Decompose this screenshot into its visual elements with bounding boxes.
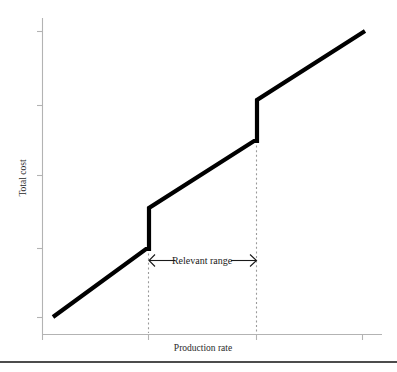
- reference-lines-group: [149, 141, 257, 333]
- total-cost-curve: [53, 31, 365, 317]
- x-axis-ticks: [43, 335, 363, 341]
- y-axis-ticks: [37, 32, 43, 318]
- relevant-range-annotation: Relevant range: [149, 255, 257, 267]
- x-axis-title: Production rate: [174, 343, 232, 353]
- y-axis-title: Total cost: [18, 159, 28, 196]
- relevant-range-label: Relevant range: [172, 255, 233, 266]
- step-cost-figure: Relevant range Total cost Production rat…: [0, 0, 397, 372]
- cost-curve-group: [53, 31, 365, 317]
- chart-canvas: Relevant range Total cost Production rat…: [0, 0, 397, 372]
